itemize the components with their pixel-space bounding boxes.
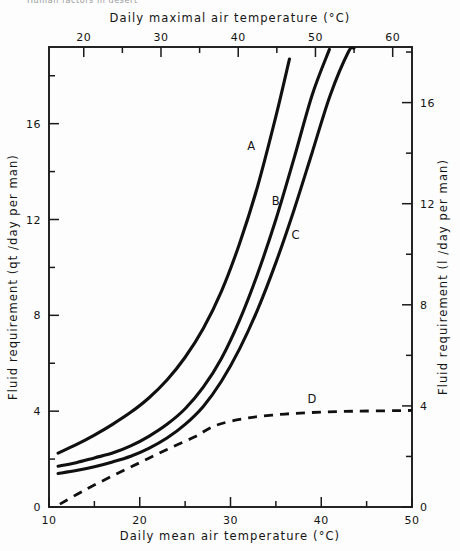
y-tick-label-right: 8: [420, 299, 428, 312]
y-axis-title-right: Fluid requirement (l /day per man): [436, 159, 450, 395]
plot-frame: [49, 47, 412, 507]
curve-a: [58, 59, 289, 453]
y-tick-label-left: 12: [26, 214, 41, 227]
y-axis-ticks-left: [49, 76, 59, 507]
y-tick-label-right: 4: [420, 400, 428, 413]
x-axis-title-bottom: Daily mean air temperature (°C): [120, 529, 340, 543]
x-tick-label-bottom: 20: [132, 514, 147, 527]
x-tick-label-bottom: 30: [223, 514, 238, 527]
y-tick-label-left: 16: [26, 118, 41, 131]
fluid-requirement-chart: ABCD 1020304050203040506004812160481216 …: [0, 0, 460, 551]
curve-c: [58, 47, 354, 473]
y-axis-title-left: Fluid requirement (qt /day per man): [6, 154, 20, 400]
x-tick-label-bottom: 50: [405, 514, 420, 527]
x-tick-label-top: 60: [385, 31, 400, 44]
y-axis-ticks-right: [402, 52, 412, 507]
y-tick-label-right: 12: [420, 198, 435, 211]
x-tick-label-bottom: 10: [42, 514, 57, 527]
cropped-page-header: Human factors in desert: [27, 0, 217, 5]
x-axis-ticks-bottom: [49, 497, 412, 507]
x-tick-label-top: 30: [153, 31, 168, 44]
data-curves: [58, 47, 412, 504]
curve-label-a: A: [247, 139, 255, 153]
x-tick-label-top: 40: [231, 31, 246, 44]
tick-labels: 1020304050203040506004812160481216: [26, 31, 435, 527]
y-tick-label-left: 8: [34, 309, 42, 322]
curve-label-b: B: [272, 194, 280, 208]
y-tick-label-right: 0: [420, 501, 428, 514]
curve-label-c: C: [292, 228, 301, 242]
y-tick-label-left: 4: [34, 405, 42, 418]
x-tick-label-bottom: 40: [314, 514, 329, 527]
chart-figure: Human factors in desert ABCD 10203040502…: [0, 0, 460, 551]
curve-label-d: D: [307, 392, 316, 406]
y-tick-label-left: 0: [34, 501, 42, 514]
x-axis-title-top: Daily maximal air temperature (°C): [110, 11, 351, 25]
x-tick-label-top: 50: [308, 31, 323, 44]
y-tick-label-right: 16: [420, 97, 435, 110]
curve-b: [58, 49, 329, 466]
x-tick-label-top: 20: [76, 31, 91, 44]
